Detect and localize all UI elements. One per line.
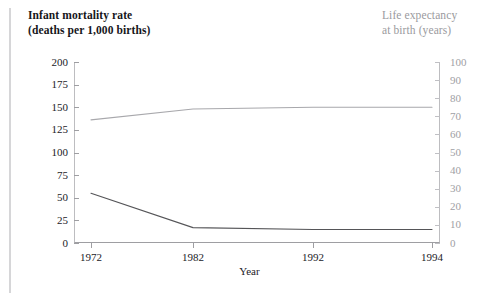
- x-tick-label: 1992: [283, 251, 343, 263]
- right-tick-label: 30: [450, 183, 490, 194]
- right-tick-mark: [435, 80, 440, 81]
- left-tick-mark: [74, 153, 79, 154]
- right-tick-label: 40: [450, 165, 490, 176]
- left-tick-label: 175: [24, 79, 68, 90]
- plot-lines: [74, 62, 440, 243]
- left-tick-mark: [74, 198, 79, 199]
- right-tick-mark: [435, 243, 440, 244]
- right-tick-label: 90: [450, 75, 490, 86]
- right-tick-mark: [435, 62, 440, 63]
- x-tick-mark: [91, 243, 92, 248]
- right-axis-title: Life expectancy at birth (years): [382, 8, 457, 38]
- right-tick-mark: [435, 98, 440, 99]
- left-tick-mark: [74, 85, 79, 86]
- left-tick-label: 75: [24, 170, 68, 181]
- left-tick-mark: [74, 107, 79, 108]
- left-tick-label: 0: [24, 238, 68, 249]
- x-tick-label: 1982: [163, 251, 223, 263]
- right-tick-label: 20: [450, 201, 490, 212]
- right-tick-mark: [435, 153, 440, 154]
- x-tick-mark: [432, 243, 433, 248]
- right-tick-mark: [435, 225, 440, 226]
- left-tick-label: 200: [24, 57, 68, 68]
- right-tick-label: 80: [450, 93, 490, 104]
- left-tick-mark: [74, 243, 79, 244]
- right-tick-label: 0: [450, 238, 490, 249]
- right-tick-label: 60: [450, 129, 490, 140]
- left-tick-label: 150: [24, 102, 68, 113]
- left-tick-mark: [74, 62, 79, 63]
- left-edge-rule: [9, 8, 11, 293]
- left-tick-label: 25: [24, 215, 68, 226]
- right-tick-label: 100: [450, 57, 490, 68]
- line-life-expectancy: [91, 107, 432, 120]
- x-axis-title: Year: [0, 265, 499, 277]
- left-tick-label: 100: [24, 147, 68, 158]
- figure-canvas: Infant mortality rate (deaths per 1,000 …: [0, 0, 499, 301]
- left-tick-mark: [74, 220, 79, 221]
- right-tick-mark: [435, 207, 440, 208]
- right-tick-mark: [435, 171, 440, 172]
- x-tick-label: 1972: [61, 251, 121, 263]
- left-tick-label: 125: [24, 124, 68, 135]
- left-axis-title: Infant mortality rate (deaths per 1,000 …: [28, 8, 150, 38]
- x-tick-mark: [193, 243, 194, 248]
- right-tick-label: 50: [450, 147, 490, 158]
- left-tick-label: 50: [24, 192, 68, 203]
- left-tick-mark: [74, 130, 79, 131]
- right-tick-label: 70: [450, 111, 490, 122]
- x-tick-mark: [313, 243, 314, 248]
- x-tick-label: 1994: [402, 251, 462, 263]
- right-tick-label: 10: [450, 219, 490, 230]
- right-tick-mark: [435, 116, 440, 117]
- line-infant-mortality: [91, 193, 432, 229]
- right-tick-mark: [435, 134, 440, 135]
- right-tick-mark: [435, 189, 440, 190]
- left-tick-mark: [74, 175, 79, 176]
